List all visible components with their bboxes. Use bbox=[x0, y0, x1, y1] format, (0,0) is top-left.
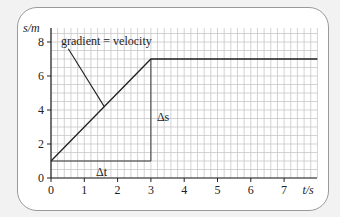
x-tick-label: 7 bbox=[281, 183, 287, 197]
x-tick-label: 4 bbox=[181, 183, 187, 197]
y-tick-label: 8 bbox=[38, 35, 44, 49]
x-tick-label: 3 bbox=[148, 183, 154, 197]
x-axis-label: t/s bbox=[302, 183, 314, 197]
y-axis-label: s/m bbox=[23, 21, 40, 36]
y-tick-label: 2 bbox=[38, 137, 44, 151]
delta-t-label: Δt bbox=[96, 165, 108, 179]
gradient-label: gradient = velocity bbox=[61, 34, 152, 48]
x-tick-label: 6 bbox=[248, 183, 254, 197]
x-tick-label: 2 bbox=[115, 183, 121, 197]
y-tick-label: 0 bbox=[38, 171, 44, 185]
x-tick-label: 5 bbox=[215, 183, 221, 197]
x-tick-label: 1 bbox=[81, 183, 87, 197]
displacement-time-graph: 0123456702468t/sgradient = velocityΔsΔt bbox=[0, 0, 340, 217]
annotation-pointer bbox=[68, 49, 104, 107]
y-tick-label: 4 bbox=[38, 103, 44, 117]
y-tick-label: 6 bbox=[38, 69, 44, 83]
x-tick-label: 0 bbox=[48, 183, 54, 197]
delta-s-label: Δs bbox=[157, 110, 170, 124]
